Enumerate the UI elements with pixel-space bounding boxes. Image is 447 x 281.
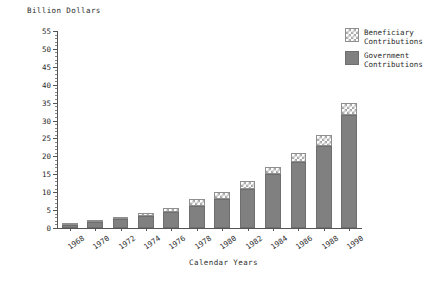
bar-1986: [291, 153, 307, 228]
y-tick-minor: [55, 60, 57, 61]
bar-segment-government: [240, 189, 256, 228]
legend-item-government: Government Contributions: [345, 51, 423, 69]
x-tick: [171, 228, 172, 231]
bar-1978: [189, 199, 205, 228]
y-tick-minor: [55, 95, 57, 96]
y-tick-minor: [55, 221, 57, 222]
bar-segment-beneficiary: [316, 135, 332, 146]
y-tick-label: 55: [42, 28, 51, 36]
y-tick-minor: [55, 106, 57, 107]
bar-1974: [138, 213, 154, 228]
x-axis-title: Calendar Years: [0, 258, 447, 267]
legend-label-government-line2: Contributions: [364, 60, 423, 69]
y-tick-minor: [55, 171, 57, 172]
y-tick-major: [53, 174, 57, 175]
bar-segment-government: [291, 162, 307, 228]
y-tick-label: 10: [42, 189, 51, 197]
y-tick-major: [53, 103, 57, 104]
bar-segment-beneficiary: [240, 181, 256, 188]
x-tick: [298, 228, 299, 231]
x-tick: [349, 228, 350, 231]
y-tick-major: [53, 85, 57, 86]
x-tick-label: 1974: [142, 234, 162, 252]
y-tick-minor: [55, 74, 57, 75]
x-tick: [197, 228, 198, 231]
bar-1990: [341, 103, 357, 228]
bar-1976: [163, 208, 179, 228]
bar-segment-beneficiary: [291, 153, 307, 162]
y-tick-minor: [55, 63, 57, 64]
y-tick-label: 45: [42, 63, 51, 71]
y-tick-minor: [55, 164, 57, 165]
bar-segment-government: [163, 212, 179, 228]
y-tick-minor: [55, 196, 57, 197]
bar-segment-government: [138, 216, 154, 228]
y-tick-minor: [55, 214, 57, 215]
y-tick-minor: [55, 153, 57, 154]
y-tick-label: 25: [42, 135, 51, 143]
y-tick-minor: [55, 92, 57, 93]
y-tick-minor: [55, 113, 57, 114]
y-tick-minor: [55, 70, 57, 71]
x-tick-label: 1980: [218, 234, 238, 252]
y-tick-minor: [55, 78, 57, 79]
y-tick-minor: [55, 142, 57, 143]
bar-segment-government: [316, 146, 332, 228]
y-tick-minor: [55, 207, 57, 208]
x-tick: [273, 228, 274, 231]
y-axis-line: [57, 31, 58, 228]
y-tick-minor: [55, 81, 57, 82]
legend-label-government-line1: Government: [364, 51, 423, 60]
y-tick-label: 40: [42, 81, 51, 89]
y-tick-minor: [55, 160, 57, 161]
y-tick-major: [53, 121, 57, 122]
x-tick-label: 1970: [91, 234, 111, 252]
y-tick-minor: [55, 224, 57, 225]
y-tick-minor: [55, 110, 57, 111]
bar-1982: [240, 181, 256, 228]
y-tick-minor: [55, 167, 57, 168]
legend-label-government: Government Contributions: [364, 51, 423, 69]
y-tick-minor: [55, 217, 57, 218]
y-tick-major: [53, 156, 57, 157]
y-tick-minor: [55, 42, 57, 43]
y-tick-minor: [55, 185, 57, 186]
y-tick-minor: [55, 56, 57, 57]
y-tick-major: [53, 210, 57, 211]
y-tick-minor: [55, 99, 57, 100]
x-tick: [248, 228, 249, 231]
x-tick-label: 1988: [320, 234, 340, 252]
y-axis-title: Billion Dollars: [27, 6, 101, 15]
y-tick-minor: [55, 124, 57, 125]
plot-area: 0510152025303540455055 19681970197219741…: [57, 31, 362, 228]
x-tick-label: 1978: [193, 234, 213, 252]
x-axis-line: [57, 228, 362, 229]
y-tick-minor: [55, 38, 57, 39]
y-tick-minor: [55, 189, 57, 190]
x-tick: [146, 228, 147, 231]
y-tick-minor: [55, 128, 57, 129]
legend-label-beneficiary: Beneficiary Contributions: [364, 28, 423, 46]
bar-segment-government: [265, 174, 281, 228]
y-tick-label: 15: [42, 171, 51, 179]
x-tick-label: 1976: [167, 234, 187, 252]
y-tick-minor: [55, 149, 57, 150]
y-tick-minor: [55, 45, 57, 46]
legend-label-beneficiary-line1: Beneficiary: [364, 28, 423, 37]
y-tick-major: [53, 67, 57, 68]
y-tick-minor: [55, 117, 57, 118]
y-tick-minor: [55, 52, 57, 53]
bar-segment-government: [214, 199, 230, 228]
x-tick-label: 1984: [269, 234, 289, 252]
legend-label-beneficiary-line2: Contributions: [364, 37, 423, 46]
bar-segment-beneficiary: [265, 167, 281, 174]
bar-segment-beneficiary: [341, 103, 357, 116]
x-tick-label: 1968: [66, 234, 86, 252]
bar-1984: [265, 167, 281, 228]
y-tick-minor: [55, 178, 57, 179]
bar-segment-government: [189, 206, 205, 228]
y-tick-label: 50: [42, 45, 51, 53]
x-tick: [121, 228, 122, 231]
y-tick-minor: [55, 146, 57, 147]
bar-chart: Billion Dollars 0510152025303540455055 1…: [0, 0, 447, 281]
